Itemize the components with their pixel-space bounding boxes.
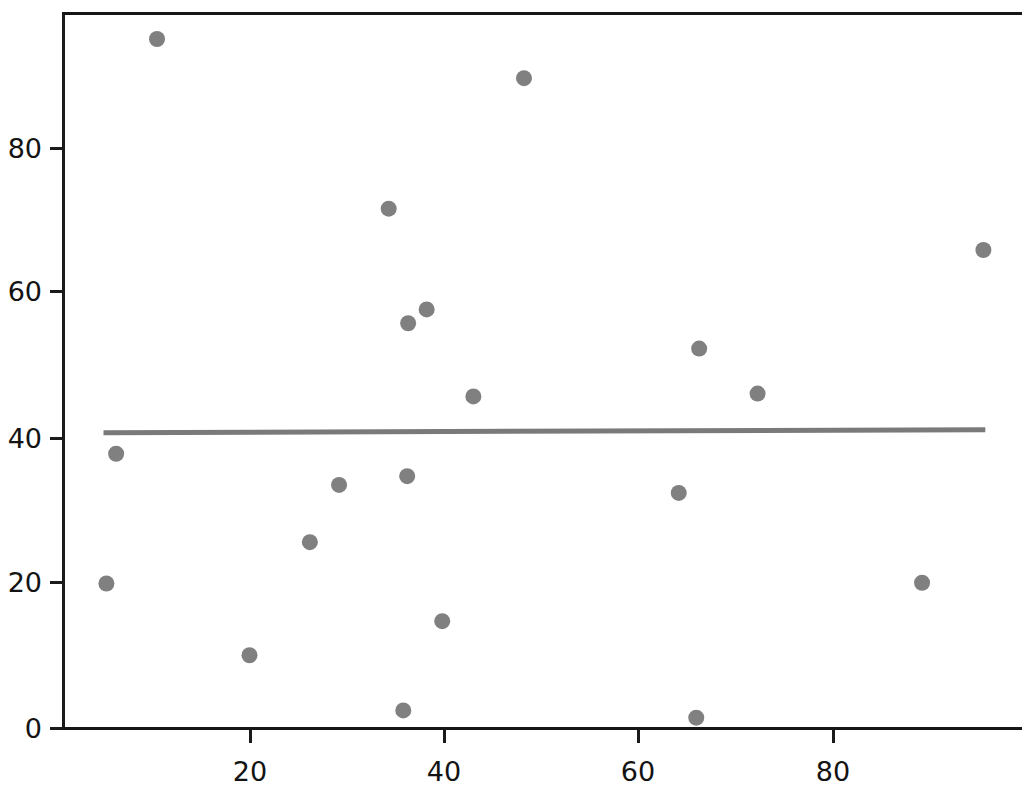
scatter-point <box>465 388 481 404</box>
scatter-point <box>671 485 687 501</box>
scatter-point <box>688 710 704 726</box>
scatter-point <box>399 468 415 484</box>
scatter-point <box>108 446 124 462</box>
scatter-point <box>302 534 318 550</box>
scatter-point <box>914 575 930 591</box>
scatter-markers-layer <box>0 0 1022 797</box>
scatter-point <box>149 31 165 47</box>
scatter-plot-figure: 80 60 40 20 0 20 40 60 80 <box>0 0 1022 797</box>
scatter-point <box>434 613 450 629</box>
scatter-point <box>419 301 435 317</box>
scatter-point <box>98 576 114 592</box>
scatter-point <box>242 647 258 663</box>
scatter-point <box>750 386 766 402</box>
scatter-point <box>975 242 991 258</box>
scatter-point <box>400 315 416 331</box>
scatter-point <box>381 201 397 217</box>
scatter-point <box>691 341 707 357</box>
scatter-point <box>395 702 411 718</box>
scatter-point <box>331 477 347 493</box>
scatter-point <box>516 70 532 86</box>
